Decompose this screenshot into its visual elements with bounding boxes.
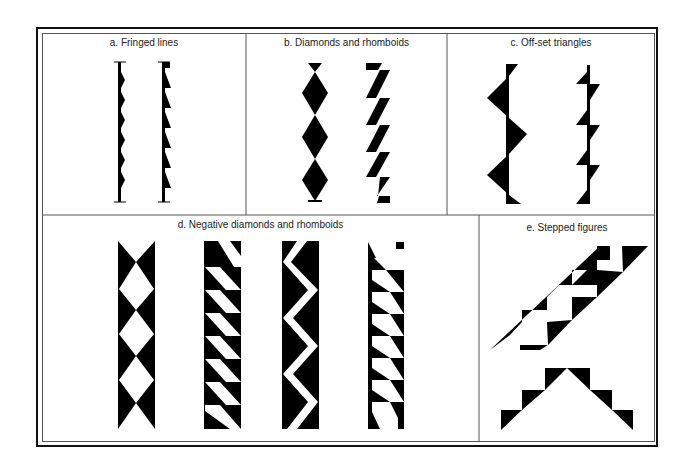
negative-diamonds-column — [118, 241, 155, 429]
diamond-column — [302, 63, 328, 202]
offset-triangles-small — [576, 65, 600, 204]
panel-b-label: b. Diamonds and rhomboids — [246, 37, 447, 48]
negative-rhomboid-column-2 — [368, 242, 404, 429]
fringed-line-right — [158, 62, 171, 202]
negative-zigzag-column — [282, 241, 319, 429]
figure-canvas — [0, 0, 694, 472]
stepped-diagonal-band — [490, 246, 648, 350]
stepped-pyramid — [501, 368, 633, 430]
fringed-line-left — [114, 62, 126, 202]
panel-e-label: e. Stepped figures — [479, 222, 655, 233]
negative-rhomboid-column-1 — [204, 241, 241, 429]
panel-a-label: a. Fringed lines — [42, 37, 246, 48]
panel-c-label: c. Off-set triangles — [447, 37, 655, 48]
rhomboid-column — [366, 63, 390, 203]
offset-triangles-large — [487, 64, 527, 204]
panel-d-label: d. Negative diamonds and rhomboids — [42, 219, 479, 230]
